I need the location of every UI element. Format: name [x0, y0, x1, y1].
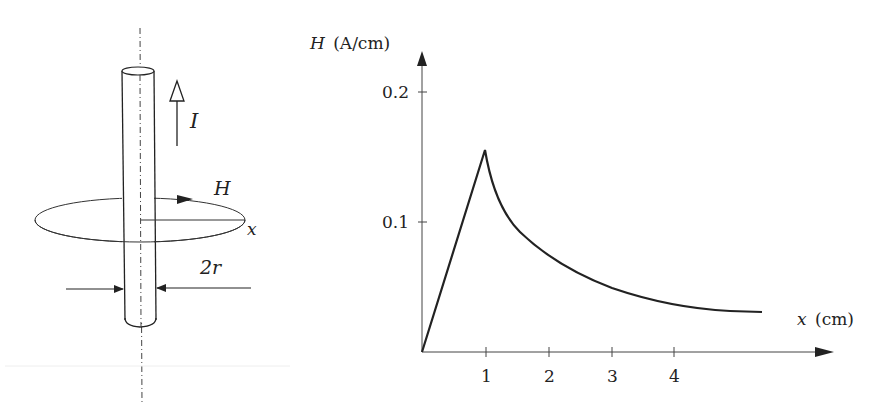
x-axis-arrow-icon [815, 347, 834, 357]
h-curve [422, 150, 762, 352]
conductor-cylinder [122, 71, 154, 321]
y-axis-label: H (A/cm) [309, 33, 390, 53]
x-tick-4: 4 [669, 366, 680, 386]
h-vs-x-chart: 0.2 0.1 1 2 3 4 H (A/cm) x (cm) [309, 33, 854, 386]
field-direction-arrow-icon [177, 195, 193, 204]
current-label: I [189, 109, 199, 133]
current-arrow-icon [170, 81, 184, 101]
x-tick-2: 2 [544, 366, 555, 386]
diameter-label: 2r [199, 256, 223, 278]
x-axis-label: x (cm) [797, 309, 854, 329]
x-tick-3: 3 [607, 366, 618, 386]
y-tick-0.1: 0.1 [382, 212, 409, 232]
field-label: H [213, 177, 231, 199]
figure-canvas: I H x 2r 0.2 0.1 1 2 3 4 H (A/cm) x [0, 0, 883, 414]
y-tick-0.2: 0.2 [382, 82, 409, 102]
distance-label: x [247, 219, 257, 239]
y-axis-arrow-icon [417, 51, 427, 66]
x-tick-1: 1 [481, 366, 492, 386]
cylinder-top-ellipse [122, 67, 154, 75]
conductor-diagram: I H x 2r [35, 28, 257, 404]
